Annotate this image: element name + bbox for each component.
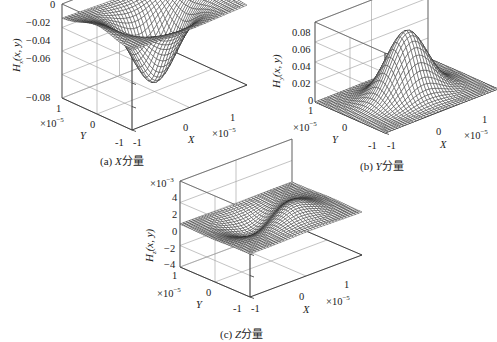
x-tick-a-0: -1 bbox=[133, 138, 142, 149]
y-axis-label-b: Y bbox=[332, 135, 338, 146]
y-multiplier-b: ×10−5 bbox=[293, 121, 317, 133]
surface-plot-c bbox=[100, 170, 380, 342]
z-tick-c-0: 4 bbox=[172, 193, 177, 204]
y-tick-a-2: 1 bbox=[56, 104, 61, 115]
y-tick-b-0: -1 bbox=[368, 141, 377, 152]
y-axis-label-c: Y bbox=[196, 300, 202, 311]
z-axis-label-c: Hz(x, y) bbox=[143, 229, 158, 262]
z-tick-b-1: 0.06 bbox=[292, 45, 310, 56]
x-multiplier-a: ×10−5 bbox=[212, 127, 236, 139]
chart-panel-b: Hy(x, y) 0.08 0.06 0.04 0.02 0 1 ×10−5 0… bbox=[250, 0, 497, 175]
z-tick-a-1: −0.02 bbox=[26, 18, 50, 29]
y-tick-c-2: 1 bbox=[172, 271, 177, 282]
chart-panel-a: Hx(x, y) 0 −0.02 −0.04 −0.06 −0.08 1 ×10… bbox=[0, 0, 250, 170]
z-axis-label-b: Hy(x, y) bbox=[270, 54, 285, 88]
y-axis-label-a: Y bbox=[80, 131, 86, 142]
y-tick-a-1: 0 bbox=[90, 120, 95, 131]
x-tick-a-2: 1 bbox=[230, 113, 235, 124]
x-tick-c-2: 1 bbox=[344, 280, 349, 291]
z-tick-a-2: −0.04 bbox=[26, 36, 50, 47]
z-multiplier-c: ×10−3 bbox=[150, 177, 174, 189]
y-multiplier-a: ×10−5 bbox=[40, 117, 64, 129]
y-multiplier-c: ×10−5 bbox=[157, 287, 181, 299]
z-tick-c-2: 0 bbox=[172, 227, 177, 238]
z-tick-c-4: −4 bbox=[164, 260, 175, 271]
caption-c: (c) Z分量 bbox=[220, 325, 263, 341]
x-tick-c-0: -1 bbox=[251, 304, 260, 315]
x-multiplier-b: ×10−5 bbox=[464, 129, 488, 141]
y-tick-a-0: -1 bbox=[115, 138, 124, 149]
z-axis-label-a: Hx(x, y) bbox=[10, 38, 25, 72]
x-tick-a-1: 0 bbox=[183, 123, 188, 134]
z-tick-a-0: 0 bbox=[50, 0, 55, 11]
caption-a: (a) X分量 bbox=[100, 152, 144, 168]
z-tick-b-2: 0.04 bbox=[292, 62, 310, 73]
z-tick-c-1: 2 bbox=[172, 210, 177, 221]
x-tick-b-1: 0 bbox=[436, 127, 441, 138]
z-tick-b-0: 0.08 bbox=[292, 28, 310, 39]
y-tick-b-1: 0 bbox=[342, 123, 347, 134]
x-tick-b-2: 1 bbox=[482, 115, 487, 126]
x-multiplier-c: ×10−5 bbox=[326, 295, 350, 307]
x-tick-b-0: -1 bbox=[387, 141, 396, 152]
x-tick-c-1: 0 bbox=[299, 292, 304, 303]
y-tick-c-0: -1 bbox=[233, 304, 242, 315]
z-tick-a-3: −0.06 bbox=[26, 54, 50, 65]
x-axis-label-a: X bbox=[188, 135, 194, 146]
chart-panel-c: ×10−3 Hz(x, y) 4 2 0 −2 −4 1 ×10−5 0 Y -… bbox=[100, 170, 380, 342]
z-tick-b-3: 0.02 bbox=[292, 79, 310, 90]
z-tick-a-4: −0.08 bbox=[26, 93, 50, 104]
x-axis-label-b: X bbox=[440, 140, 446, 151]
z-tick-c-3: −2 bbox=[164, 244, 175, 255]
y-tick-b-2: 1 bbox=[308, 106, 313, 117]
x-axis-label-c: X bbox=[303, 305, 309, 316]
y-tick-c-1: 0 bbox=[206, 288, 211, 299]
